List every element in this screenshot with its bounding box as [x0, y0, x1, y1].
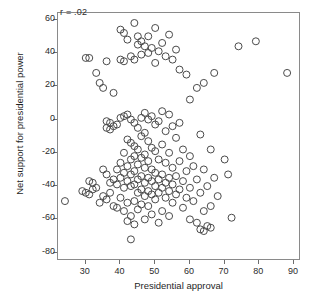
data-point	[176, 158, 183, 165]
x-tick-mark	[119, 260, 120, 264]
data-point	[235, 43, 242, 50]
x-tick-label: 60	[174, 266, 204, 276]
x-tick-label: 30	[70, 266, 100, 276]
data-point	[214, 193, 221, 200]
data-point	[103, 58, 110, 65]
data-point	[193, 219, 200, 226]
x-tick-label: 40	[104, 266, 134, 276]
y-tick-label: 40	[0, 46, 55, 56]
data-point	[186, 184, 193, 191]
data-point	[148, 211, 155, 218]
data-point	[200, 79, 207, 86]
data-point	[284, 69, 291, 76]
data-point	[124, 163, 131, 170]
data-point	[162, 179, 169, 186]
data-point	[197, 189, 204, 196]
data-point	[162, 159, 169, 166]
data-point	[166, 188, 173, 195]
data-point	[166, 31, 173, 38]
x-tick-mark	[224, 260, 225, 264]
data-point	[166, 149, 173, 156]
x-tick-mark	[85, 260, 86, 264]
data-point	[197, 131, 204, 138]
x-tick-mark	[189, 260, 190, 264]
data-point	[166, 111, 173, 118]
x-tick-mark	[258, 260, 259, 264]
data-point	[141, 43, 148, 50]
data-point	[179, 178, 186, 185]
data-point	[155, 156, 162, 163]
data-point	[200, 166, 207, 173]
data-point	[207, 203, 214, 210]
data-point	[183, 71, 190, 78]
data-point	[134, 124, 141, 131]
data-point	[134, 161, 141, 168]
data-point	[145, 138, 152, 145]
data-point	[152, 59, 159, 66]
x-tick-mark	[293, 260, 294, 264]
data-point	[120, 169, 127, 176]
data-point	[96, 199, 103, 206]
data-point	[190, 198, 197, 205]
data-point	[190, 163, 197, 170]
data-point	[186, 216, 193, 223]
x-tick-label: 90	[278, 266, 308, 276]
data-point	[169, 123, 176, 130]
data-point	[155, 48, 162, 55]
data-point	[176, 119, 183, 126]
x-axis-label: Presidential approval	[57, 280, 300, 291]
data-point	[186, 153, 193, 160]
data-point	[211, 174, 218, 181]
data-point	[183, 194, 190, 201]
data-point	[96, 79, 103, 86]
data-point	[152, 24, 159, 31]
y-axis-label: Net support for presidential power	[14, 9, 25, 239]
data-point	[138, 114, 145, 121]
data-point	[200, 208, 207, 215]
data-point	[169, 199, 176, 206]
data-point	[148, 44, 155, 51]
correlation-annotation: r = .02	[60, 7, 87, 17]
data-point	[100, 84, 107, 91]
data-point	[107, 189, 114, 196]
data-point	[152, 196, 159, 203]
data-point	[162, 128, 169, 135]
y-tick-label: -40	[0, 179, 55, 189]
data-point	[145, 49, 152, 56]
data-point	[252, 38, 259, 45]
data-point	[120, 149, 127, 156]
data-point	[173, 46, 180, 53]
data-point	[152, 183, 159, 190]
x-tick-label: 50	[139, 266, 169, 276]
data-point	[228, 214, 235, 221]
y-tick-label: 20	[0, 79, 55, 89]
data-point	[145, 33, 152, 40]
data-point	[127, 236, 134, 243]
data-point	[193, 84, 200, 91]
data-point	[134, 33, 141, 40]
data-point	[141, 109, 148, 116]
data-point	[204, 183, 211, 190]
data-point	[155, 219, 162, 226]
data-point	[138, 51, 145, 58]
data-point	[162, 194, 169, 201]
data-point	[173, 173, 180, 180]
data-point	[141, 193, 148, 200]
data-point	[124, 36, 131, 43]
data-point	[169, 56, 176, 63]
data-point	[131, 221, 138, 228]
data-point	[120, 208, 127, 215]
data-point	[61, 198, 68, 205]
data-point	[179, 204, 186, 211]
data-point	[145, 203, 152, 210]
data-point	[159, 108, 166, 115]
data-point	[124, 218, 131, 225]
data-point	[141, 164, 148, 171]
data-point	[131, 198, 138, 205]
data-point	[166, 213, 173, 220]
data-point	[193, 176, 200, 183]
data-point	[141, 179, 148, 186]
data-point	[103, 171, 110, 178]
data-point	[176, 66, 183, 73]
data-point	[225, 171, 232, 178]
